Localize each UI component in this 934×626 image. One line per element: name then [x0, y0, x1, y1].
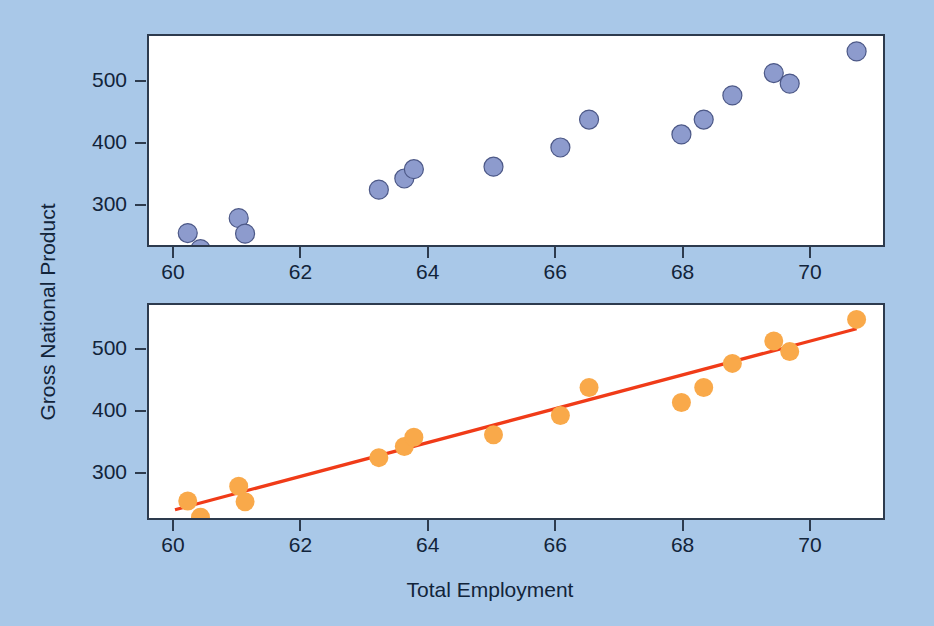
regression-line — [175, 329, 857, 510]
data-point — [484, 425, 503, 444]
x-axis-label: Total Employment — [280, 578, 700, 602]
y-tick-mark — [135, 80, 146, 82]
x-tick-label: 70 — [787, 534, 833, 555]
y-tick-mark — [135, 348, 146, 350]
x-tick-label: 60 — [150, 261, 196, 282]
data-point — [780, 74, 799, 93]
x-tick-mark — [299, 520, 301, 531]
data-point — [723, 354, 742, 373]
data-point — [580, 110, 599, 129]
x-tick-label: 70 — [787, 261, 833, 282]
data-point — [764, 332, 783, 351]
x-tick-mark — [172, 520, 174, 531]
scatter-panel-top — [147, 34, 885, 247]
x-tick-mark — [682, 247, 684, 258]
x-tick-label: 68 — [660, 261, 706, 282]
data-point — [723, 86, 742, 105]
data-point — [780, 342, 799, 361]
data-point — [580, 378, 599, 397]
x-tick-mark — [172, 247, 174, 258]
y-tick-label: 300 — [67, 193, 127, 214]
y-axis-label: Gross National Product — [36, 172, 60, 452]
data-point — [694, 110, 713, 129]
x-tick-mark — [809, 520, 811, 531]
x-tick-label: 62 — [277, 534, 323, 555]
y-tick-mark — [135, 472, 146, 474]
x-tick-label: 64 — [405, 534, 451, 555]
data-point — [191, 508, 210, 518]
data-point — [672, 393, 691, 412]
data-point — [551, 406, 570, 425]
data-point — [236, 224, 255, 243]
scatter-panel-bottom — [147, 303, 885, 520]
x-tick-label: 68 — [660, 534, 706, 555]
x-tick-mark — [554, 247, 556, 258]
data-point — [551, 138, 570, 157]
x-tick-label: 62 — [277, 261, 323, 282]
data-point — [672, 125, 691, 144]
x-tick-mark — [682, 520, 684, 531]
data-point — [236, 492, 255, 511]
x-tick-label: 64 — [405, 261, 451, 282]
data-point — [369, 180, 388, 199]
y-tick-mark — [135, 204, 146, 206]
x-tick-label: 66 — [532, 534, 578, 555]
data-point — [178, 224, 197, 243]
data-point — [694, 378, 713, 397]
x-tick-mark — [809, 247, 811, 258]
y-tick-label: 300 — [67, 461, 127, 482]
data-point — [847, 42, 866, 61]
data-point — [847, 310, 866, 329]
data-point — [404, 160, 423, 179]
y-tick-label: 400 — [67, 131, 127, 152]
data-point — [404, 428, 423, 447]
x-tick-mark — [299, 247, 301, 258]
x-tick-label: 66 — [532, 261, 578, 282]
x-tick-label: 60 — [150, 534, 196, 555]
top-plot-area — [149, 36, 883, 245]
y-tick-mark — [135, 142, 146, 144]
data-point — [484, 157, 503, 176]
y-tick-label: 400 — [67, 399, 127, 420]
y-tick-mark — [135, 410, 146, 412]
figure-canvas: 300400500 606264666870 300400500 6062646… — [0, 0, 934, 626]
x-tick-mark — [554, 520, 556, 531]
x-tick-mark — [427, 520, 429, 531]
data-point — [369, 448, 388, 467]
y-tick-label: 500 — [67, 337, 127, 358]
bottom-plot-area — [149, 305, 883, 518]
y-tick-label: 500 — [67, 69, 127, 90]
x-tick-mark — [427, 247, 429, 258]
data-point — [178, 492, 197, 511]
